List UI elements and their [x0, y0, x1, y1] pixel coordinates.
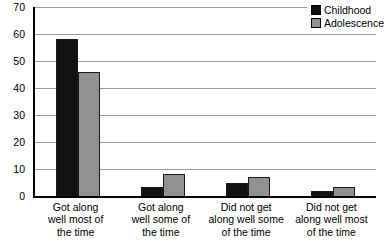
bar-group: [35, 7, 120, 196]
legend-label: Childhood: [324, 5, 371, 16]
bar-adolescence: [333, 187, 355, 196]
bar-chart: 010203040506070 Got along well most of t…: [0, 0, 386, 244]
category-label: Did not get along well most of the time: [289, 201, 374, 238]
plot-area: [33, 7, 376, 198]
y-tick-label: 10: [13, 164, 25, 175]
legend-label: Adolescence: [324, 18, 384, 29]
y-tick-label: 70: [13, 2, 25, 13]
y-tick-label: 20: [13, 137, 25, 148]
y-axis-labels: 010203040506070: [0, 7, 29, 196]
y-tick-label: 0: [19, 191, 25, 202]
legend: ChildhoodAdolescence: [307, 3, 386, 30]
category-label: Did not get along well some of the time: [204, 201, 289, 238]
bar-group: [206, 7, 291, 196]
bar-group: [120, 7, 205, 196]
category-label: Got along well most of the time: [33, 201, 118, 238]
x-axis-labels: Got along well most of the timeGot along…: [33, 201, 374, 238]
bar-adolescence: [248, 177, 270, 196]
bar-childhood: [311, 191, 333, 196]
bar-adolescence: [78, 72, 100, 196]
legend-swatch-adolescence: [311, 18, 321, 28]
legend-item: Adolescence: [311, 18, 384, 29]
bar-childhood: [226, 183, 248, 197]
bar-adolescence: [163, 174, 185, 196]
category-label: Got along well some of the time: [118, 201, 203, 238]
y-tick-label: 60: [13, 29, 25, 40]
bar-childhood: [56, 39, 78, 196]
bar-groups: [35, 7, 376, 196]
bar-childhood: [141, 187, 163, 196]
bar-group: [291, 7, 376, 196]
legend-item: Childhood: [311, 5, 384, 16]
y-tick-label: 30: [13, 110, 25, 121]
y-tick-label: 40: [13, 83, 25, 94]
y-tick-label: 50: [13, 56, 25, 67]
legend-swatch-childhood: [311, 5, 321, 15]
